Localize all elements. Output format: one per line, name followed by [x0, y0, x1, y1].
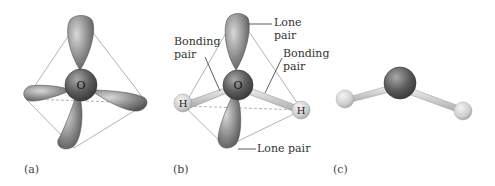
svg-text:H: H [179, 98, 188, 109]
oh-bond-left [188, 88, 227, 108]
diagram-canvas: O O H H [0, 0, 495, 186]
label-lone-pair-bottom: Lone pair [257, 142, 310, 155]
panel-label-b: (b) [173, 163, 189, 176]
oxygen-atom [384, 67, 416, 99]
lone-pair-lobe-top [225, 14, 249, 71]
label-bonding-pair-right: Bonding pair [283, 47, 329, 73]
oxygen-symbol: O [76, 79, 85, 92]
lone-pair-lobe-bottom [218, 96, 241, 148]
panel-a-tetrahedron: O [24, 16, 147, 149]
label-lone-pair-top: Lone pair [274, 16, 302, 42]
svg-text:H: H [297, 105, 306, 116]
hydrogen-atom-left [336, 90, 354, 108]
label-bonding-pair-left: Bonding pair [174, 35, 220, 61]
panel-c-ball-stick [336, 67, 472, 120]
svg-text:O: O [233, 79, 242, 92]
panel-label-a: (a) [24, 163, 39, 176]
hydrogen-atom-right [454, 102, 472, 120]
panel-label-c: (c) [333, 163, 348, 176]
